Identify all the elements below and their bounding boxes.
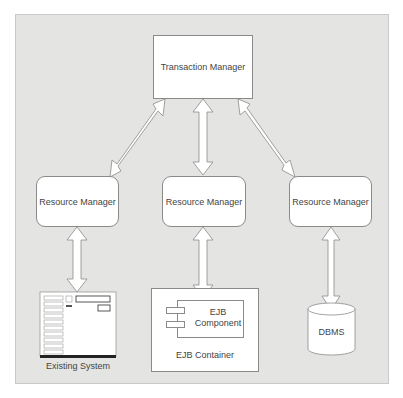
- transaction-manager-label: Transaction Manager: [161, 62, 246, 72]
- ejb-component-node: EJB Component: [177, 300, 244, 338]
- resource-manager-center-node: Resource Manager: [162, 176, 246, 227]
- ejb-component-label-line1: EJB: [192, 307, 244, 318]
- ejb-component-label-line2: Component: [192, 318, 244, 329]
- transaction-manager-node: Transaction Manager: [153, 35, 253, 99]
- resource-manager-left-node: Resource Manager: [36, 176, 119, 227]
- resource-manager-label: Resource Manager: [166, 197, 243, 207]
- resource-manager-label: Resource Manager: [292, 197, 369, 207]
- ejb-container-label: EJB Container: [152, 350, 258, 360]
- dbms-label: DBMS: [308, 327, 355, 337]
- arrow-tm-to-rm-center: [193, 99, 213, 175]
- arrow-tm-to-rm-right: [238, 99, 295, 177]
- arrow-rm-right-to-dbms: [322, 227, 340, 310]
- resource-manager-right-node: Resource Manager: [289, 176, 372, 227]
- component-port-icon: [166, 321, 185, 328]
- existing-system-screen-icon: [40, 292, 116, 358]
- arrow-tm-to-rm-left: [110, 99, 165, 177]
- arrow-rm-left-to-existing-system: [67, 227, 87, 292]
- component-port-icon: [166, 307, 185, 314]
- existing-system-label: Existing System: [40, 361, 116, 371]
- resource-manager-label: Resource Manager: [39, 197, 116, 207]
